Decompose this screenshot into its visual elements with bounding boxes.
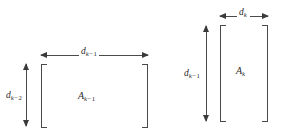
left-width-sub-num: 1 [93, 50, 96, 57]
right-block-close-bracket [261, 25, 268, 122]
right-height-sub-num: 1 [196, 72, 199, 79]
left-height-sub-num: 2 [18, 94, 21, 101]
right-block-open-bracket [220, 25, 227, 122]
left-matrix-subscript: k−1 [84, 95, 95, 102]
left-height-subscript: k−2 [11, 94, 22, 101]
right-block-height-arrow [206, 26, 207, 121]
left-width-subscript: k−1 [86, 50, 97, 57]
right-matrix-subscript: k [242, 70, 246, 77]
right-block-height-label: dk−1 [184, 68, 200, 80]
left-matrix-sub-num: 1 [92, 95, 95, 102]
left-block-open-bracket [41, 64, 48, 128]
left-block-height-label: dk−2 [6, 90, 22, 102]
left-block-matrix-label: Ak−1 [78, 91, 95, 101]
right-block-width-label: dk [237, 8, 250, 18]
left-block-close-bracket [141, 64, 148, 128]
right-width-sub-op [247, 11, 248, 18]
right-block-matrix-label: Ak [236, 66, 246, 76]
figure-canvas: dk−1 dk−2 Ak−1 dk dk−1 Ak [0, 0, 285, 137]
right-height-subscript: k−1 [189, 72, 200, 79]
left-block-height-arrow [26, 64, 27, 126]
left-block-width-label: dk−1 [79, 47, 99, 57]
right-width-subscript: k [244, 11, 248, 18]
right-matrix-sub-op [245, 70, 246, 77]
